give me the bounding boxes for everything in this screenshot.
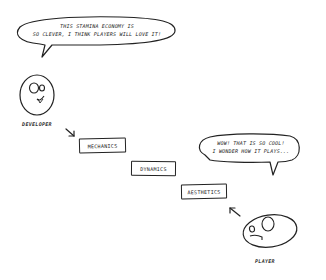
player-speech-text: WOW! THAT IS SO COOL! I WONDER HOW IT PL… — [204, 139, 298, 155]
mda-diagram: THIS STAMINA ECONOMY IS SO CLEVER, I THI… — [0, 0, 326, 280]
developer-face-icon — [20, 75, 54, 115]
developer-label: DEVELOPER — [14, 121, 60, 127]
developer-speech-text: THIS STAMINA ECONOMY IS SO CLEVER, I THI… — [22, 22, 172, 38]
player-speech-line-1: WOW! THAT IS SO COOL! — [204, 139, 298, 147]
player-face-icon — [241, 211, 299, 250]
stage-box-mechanics: MECHANICS — [79, 137, 126, 153]
developer-arrow-icon — [66, 129, 74, 136]
developer-speech-line-1: THIS STAMINA ECONOMY IS — [22, 22, 172, 30]
player-label: PLAYER — [245, 258, 285, 264]
stage-box-dynamics: DYNAMICS — [131, 161, 176, 176]
player-arrow-icon — [230, 208, 240, 216]
player-speech-line-2: I WONDER HOW IT PLAYS... — [204, 147, 298, 155]
stage-box-aesthetics: AESTHETICS — [181, 184, 227, 200]
developer-speech-line-2: SO CLEVER, I THINK PLAYERS WILL LOVE IT! — [22, 30, 172, 38]
